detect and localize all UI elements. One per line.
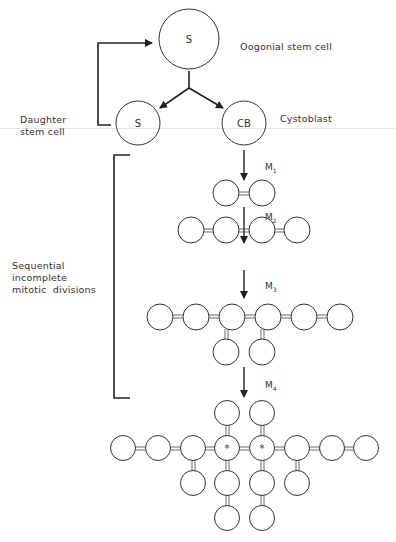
oogonial-stem-cell-caption: Oogonial stem cell [240,41,332,53]
division-label-m3: M3 [265,281,277,293]
cystoblast-caption: Cystoblast [280,113,332,125]
bracket-label-line1: Sequential [12,260,65,272]
oocyte-marker: * [225,443,230,454]
bracket-label-line2: incomplete [12,272,67,284]
division-label-m1: M1 [265,162,277,174]
cystoblast-label: CB [237,118,251,129]
division-label-m2: M2 [265,212,277,224]
oocyte-marker: * [260,443,265,454]
division-label-m4: M4 [265,380,277,392]
daughter-caption-line1: Daughter [20,114,66,126]
stem-cell-label: S [186,34,192,45]
divisions-bracket [114,155,130,398]
bracket-label-line3: mitotic divisions [12,284,96,296]
daughter-cell-label: S [135,118,141,129]
daughter-caption-line2: stem cell [20,126,65,138]
